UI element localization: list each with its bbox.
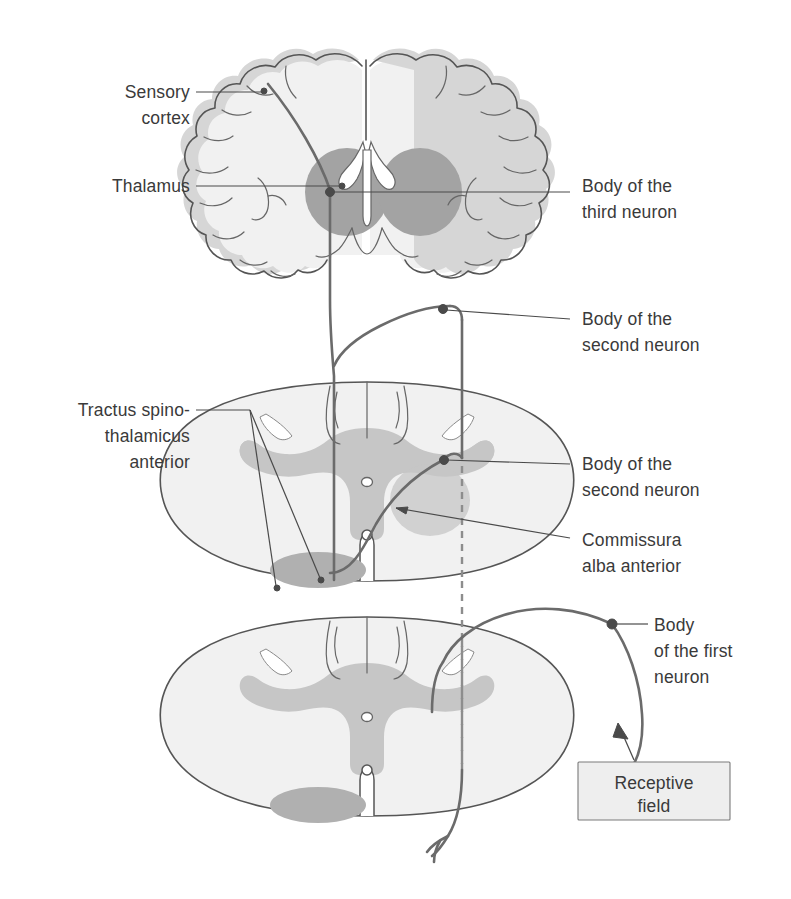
label-thalamus: Thalamus (112, 176, 190, 196)
label-second-neuron-lower-line2: second neuron (582, 480, 700, 500)
cord-lower-central-canal (362, 713, 373, 722)
label-third-neuron-line2: third neuron (582, 202, 677, 222)
leader-second-neuron-upper (446, 310, 570, 319)
cord-upper-spinothalamic-patch (270, 552, 366, 588)
label-tractus-line2: thalamicus (105, 426, 190, 446)
label-receptive-field-line2: field (638, 796, 671, 816)
label-first-neuron-line2: of the first (654, 641, 733, 661)
label-second-neuron-upper-line2: second neuron (582, 335, 700, 355)
first-order-axon-ganglion-tail-upper (334, 306, 450, 366)
tractus-endpoint-b (318, 577, 324, 583)
label-third-neuron-line1: Body of the (582, 176, 672, 196)
label-first-neuron-line3: neuron (654, 667, 709, 687)
first-order-axon-to-ganglion-upper (450, 306, 462, 320)
label-sensory-cortex-line1: Sensory (125, 82, 190, 102)
label-receptive-field-line1: Receptive (614, 773, 693, 793)
label-second-neuron-upper-line1: Body of the (582, 309, 672, 329)
label-sensory-cortex-line2: cortex (141, 108, 190, 128)
brain-coronal-section (177, 48, 555, 278)
receptive-field-arrowhead (613, 723, 628, 739)
cord-lower-fissure-tip (362, 765, 372, 775)
label-second-neuron-lower-line1: Body of the (582, 454, 672, 474)
cord-upper-central-canal (362, 478, 373, 487)
first-neuron-body (607, 619, 617, 629)
label-commissura-line2: alba anterior (582, 556, 681, 576)
first-neuron-peripheral-axon (612, 624, 642, 776)
third-neuron-body (326, 188, 335, 197)
spinothalamic-tract-diagram: Sensory cortex Thalamus Body of the thir… (0, 0, 791, 899)
label-commissura-line1: Commissura (582, 530, 682, 550)
second-neuron-body-lower (440, 456, 449, 465)
spinal-cord-upper-section (160, 382, 573, 588)
cord-upper-spinothalamic-patch-right (390, 464, 470, 536)
tractus-endpoint-a (274, 585, 280, 591)
sensory-cortex-endpoint (261, 88, 267, 94)
label-tractus-line3: anterior (129, 452, 190, 472)
label-first-neuron-line1: Body (654, 615, 695, 635)
cord-lower-spinothalamic-patch (270, 787, 366, 823)
spinal-cord-lower-section (160, 617, 573, 823)
thalamus-endpoint (339, 183, 345, 189)
third-ventricle (363, 150, 371, 226)
label-tractus-line1: Tractus spino- (78, 400, 190, 420)
second-neuron-body-upper (439, 305, 448, 314)
